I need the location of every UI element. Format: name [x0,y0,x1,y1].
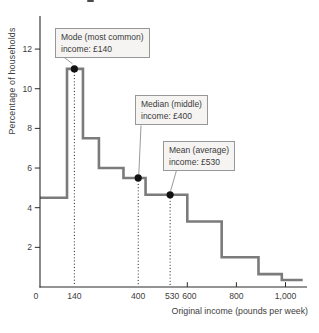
median-leader-line [139,126,141,175]
x-tick-label: 800 [221,291,251,301]
median-point-dot [135,174,142,181]
y-tick-label: 12 [12,44,32,54]
mode-annotation-line1: Mode (most common) [61,32,144,44]
y-tick-label: 2 [12,242,32,252]
mean-point-dot [167,191,174,198]
x-tick-label: 0 [21,291,51,301]
y-tick-label: 4 [12,203,32,213]
x-axis-title: Original income (pounds per week) [172,306,308,316]
mean-annotation: Mean (average) income: £530 [163,141,235,171]
median-annotation: Median (middle) income: £400 [135,95,208,125]
mean-leader-line [171,169,178,192]
mode-annotation-line2: income: £140 [61,44,144,56]
x-tick-label: 600 [174,291,204,301]
income-distribution-figure: Percentage of households Original income… [0,0,319,333]
mean-annotation-line1: Mean (average) [169,145,229,157]
mode-annotation: Mode (most common) income: £140 [55,28,150,58]
y-tick-label: 10 [12,84,32,94]
x-tick-label: 1,000 [271,291,301,301]
x-tick-label: 400 [123,291,153,301]
median-annotation-line2: income: £400 [141,111,202,123]
mode-point-dot [71,65,78,72]
x-tick-label: 140 [59,291,89,301]
plot-canvas [0,0,319,333]
mean-annotation-line2: income: £530 [169,157,229,169]
y-tick-label: 8 [12,123,32,133]
median-annotation-line1: Median (middle) [141,99,202,111]
y-tick-label: 6 [12,163,32,173]
